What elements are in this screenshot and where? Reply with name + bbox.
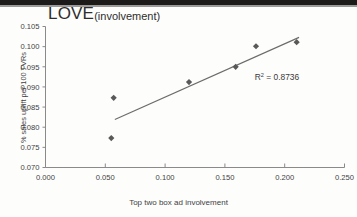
y-axis-tick-label: 0.100 xyxy=(20,42,39,51)
data-point-marker xyxy=(253,43,259,49)
x-axis-tick-label: 0.150 xyxy=(215,173,234,182)
x-axis-tick-label: 0.000 xyxy=(36,173,55,182)
y-axis-tick-label: 0.090 xyxy=(20,83,39,92)
x-axis-tick-label: 0.250 xyxy=(335,173,354,182)
y-axis-tick-label: 0.075 xyxy=(20,143,39,152)
data-point-marker xyxy=(186,79,192,85)
y-axis-tick-label: 0.095 xyxy=(20,63,39,72)
x-axis-tick-label: 0.200 xyxy=(275,173,294,182)
r-squared-annotation: R2 = 0.8736 xyxy=(255,72,300,82)
plot-area: 0.0700.0750.0800.0850.0900.0950.1000.105… xyxy=(0,0,357,217)
chart-figure: LOVE(involvement) % sales uplift per 100… xyxy=(0,0,357,217)
y-axis-tick-label: 0.105 xyxy=(20,22,39,31)
axes-group: 0.0700.0750.0800.0850.0900.0950.1000.105… xyxy=(20,22,354,181)
data-point-marker xyxy=(108,135,114,141)
y-axis-tick-label: 0.070 xyxy=(20,163,39,172)
y-axis-tick-label: 0.085 xyxy=(20,103,39,112)
x-axis-tick-label: 0.100 xyxy=(156,173,175,182)
y-axis-tick-label: 0.080 xyxy=(20,123,39,132)
data-points-group xyxy=(108,39,300,141)
data-point-marker xyxy=(111,95,117,101)
annotations-group: R2 = 0.8736 xyxy=(255,72,300,82)
data-point-marker xyxy=(294,39,300,45)
x-axis-tick-label: 0.050 xyxy=(96,173,115,182)
